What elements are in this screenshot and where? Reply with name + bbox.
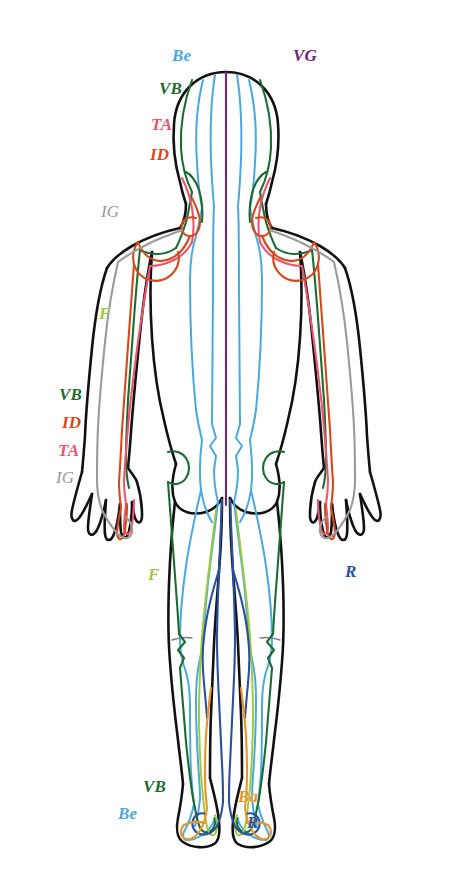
meridian-label-head-vb: VB [159, 80, 182, 97]
meridian-label-arm-f: F [99, 305, 111, 322]
meridian-label-arm-ig: IG [56, 469, 74, 486]
meridian-label-foot-vb: VB [143, 778, 166, 795]
meridian-label-leg-f: F [148, 566, 160, 583]
meridian-label-head-be: Be [172, 47, 191, 64]
meridian-label-foot-ba: Ba [238, 788, 258, 805]
meridian-label-head-id: ID [150, 146, 169, 163]
meridian-label-head-vg: VG [293, 47, 317, 64]
meridian-label-arm-id: ID [62, 414, 81, 431]
meridian-label-arm-vb: VB [59, 386, 82, 403]
meridian-label-shoulder-ig: IG [101, 203, 119, 220]
meridian-label-leg-r: R [345, 563, 357, 580]
meridian-label-head-ta: TA [151, 116, 172, 133]
meridian-label-foot-be: Be [118, 805, 137, 822]
meridian-label-foot-r: R [247, 814, 259, 831]
meridian-label-arm-ta: TA [58, 442, 79, 459]
meridian-diagram-page: Be VG VB TA ID IG F VB ID TA IG F R VB B… [0, 0, 452, 888]
